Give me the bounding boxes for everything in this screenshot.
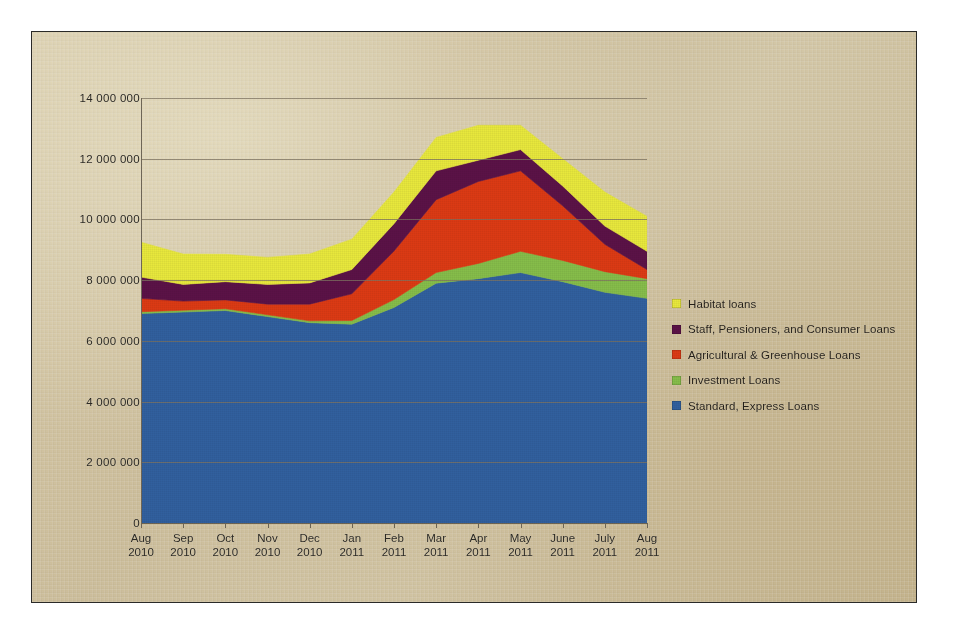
- legend-item[interactable]: Standard, Express Loans: [672, 399, 912, 412]
- gridline: [141, 219, 647, 220]
- x-axis-tick-mark: [647, 523, 648, 528]
- x-axis-tick-label: Aug2011: [620, 532, 674, 559]
- x-axis-tick-mark: [310, 523, 311, 528]
- stacked-area-chart: 14 000 00012 000 00010 000 0008 000 0006…: [32, 32, 916, 602]
- gridline: [141, 462, 647, 463]
- y-axis-tick-label: 10 000 000: [79, 213, 140, 225]
- y-axis-line: [141, 98, 142, 524]
- legend-item-label: Investment Loans: [688, 374, 780, 386]
- x-axis-label-month: Aug: [620, 532, 674, 546]
- y-axis-tick-label: 8 000 000: [86, 274, 140, 286]
- legend-color-swatch-icon: [672, 401, 681, 410]
- gridline: [141, 98, 647, 99]
- legend-item-label: Staff, Pensioners, and Consumer Loans: [688, 323, 895, 335]
- x-axis-tick-mark: [521, 523, 522, 528]
- x-axis-tick-mark: [141, 523, 142, 528]
- x-axis-tick-mark: [268, 523, 269, 528]
- y-axis-tick-label: 6 000 000: [86, 335, 140, 347]
- legend-color-swatch-icon: [672, 376, 681, 385]
- y-axis-tick-labels: 14 000 00012 000 00010 000 0008 000 0006…: [52, 32, 140, 602]
- legend-color-swatch-icon: [672, 350, 681, 359]
- gridline: [141, 159, 647, 160]
- chart-figure-frame: 14 000 00012 000 00010 000 0008 000 0006…: [31, 31, 917, 603]
- x-axis-tick-mark: [225, 523, 226, 528]
- legend-color-swatch-icon: [672, 325, 681, 334]
- legend-item[interactable]: Staff, Pensioners, and Consumer Loans: [672, 323, 912, 336]
- x-axis-tick-mark: [394, 523, 395, 528]
- screenshot-page: 14 000 00012 000 00010 000 0008 000 0006…: [0, 0, 954, 633]
- gridline: [141, 280, 647, 281]
- stacked-area-series-group: [141, 98, 647, 523]
- legend-item[interactable]: Habitat loans: [672, 297, 912, 310]
- legend-item-label: Standard, Express Loans: [688, 400, 819, 412]
- x-axis-tick-mark: [605, 523, 606, 528]
- y-axis-tick-label: 12 000 000: [79, 153, 140, 165]
- gridline: [141, 402, 647, 403]
- legend-item[interactable]: Investment Loans: [672, 374, 912, 387]
- legend-item-label: Agricultural & Greenhouse Loans: [688, 349, 861, 361]
- x-axis-tick-mark: [563, 523, 564, 528]
- y-axis-tick-label: 0: [133, 517, 140, 529]
- y-axis-tick-label: 4 000 000: [86, 396, 140, 408]
- legend-color-swatch-icon: [672, 299, 681, 308]
- plot-area: [141, 98, 647, 523]
- gridline: [141, 341, 647, 342]
- x-axis-tick-mark: [352, 523, 353, 528]
- chart-legend: Habitat loansStaff, Pensioners, and Cons…: [672, 297, 912, 425]
- x-axis-tick-mark: [478, 523, 479, 528]
- y-axis-tick-label: 14 000 000: [79, 92, 140, 104]
- x-axis-tick-mark: [436, 523, 437, 528]
- x-axis-label-year: 2011: [620, 546, 674, 560]
- x-axis-tick-mark: [183, 523, 184, 528]
- legend-item-label: Habitat loans: [688, 298, 756, 310]
- y-axis-tick-label: 2 000 000: [86, 456, 140, 468]
- legend-item[interactable]: Agricultural & Greenhouse Loans: [672, 348, 912, 361]
